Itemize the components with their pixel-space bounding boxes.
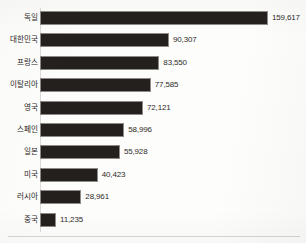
value-label: 58,996: [128, 126, 152, 134]
bar-row: 미국40,423: [0, 168, 306, 182]
value-label: 90,307: [173, 36, 197, 44]
bar-chart: 독일159,617대한민국90,307프랑스83,550이탈리아77,585영국…: [0, 0, 306, 243]
bar: [40, 56, 159, 70]
bar-row: 독일159,617: [0, 11, 306, 25]
category-label: 프랑스: [17, 59, 38, 67]
bar: [40, 145, 120, 159]
bar: [40, 123, 124, 137]
bar: [40, 168, 98, 182]
category-axis-line: [40, 8, 41, 232]
category-label: 스페인: [17, 126, 38, 134]
bar-row: 대한민국90,307: [0, 33, 306, 47]
plot-area: 독일159,617대한민국90,307프랑스83,550이탈리아77,585영국…: [0, 0, 306, 243]
bar: [40, 33, 169, 47]
category-label: 이탈리아: [10, 81, 38, 89]
bar: [40, 78, 151, 92]
bar: [40, 213, 56, 227]
value-label: 83,550: [163, 59, 187, 67]
bar: [40, 101, 143, 115]
bar-row: 중국11,235: [0, 213, 306, 227]
category-label: 러시아: [17, 193, 38, 201]
category-label: 대한민국: [10, 37, 38, 45]
value-label: 72,121: [147, 104, 171, 112]
bar-row: 러시아28,961: [0, 190, 306, 204]
bar-row: 스페인58,996: [0, 123, 306, 137]
value-label: 28,961: [85, 193, 109, 201]
category-label: 일본: [24, 149, 38, 157]
category-label: 미국: [24, 171, 38, 179]
value-label: 77,585: [155, 81, 179, 89]
value-label: 55,928: [124, 148, 148, 156]
category-label: 영국: [24, 104, 38, 112]
bar-row: 이탈리아77,585: [0, 78, 306, 92]
value-label: 11,235: [60, 216, 83, 224]
bar-row: 프랑스83,550: [0, 56, 306, 70]
category-label: 독일: [24, 14, 38, 22]
value-label: 40,423: [102, 171, 126, 179]
bar-row: 영국72,121: [0, 101, 306, 115]
category-label: 중국: [24, 216, 38, 224]
value-label: 159,617: [272, 14, 300, 22]
bar-row: 일본55,928: [0, 145, 306, 159]
bottom-rule: [8, 236, 300, 237]
bar: [40, 11, 268, 25]
bar: [40, 190, 81, 204]
